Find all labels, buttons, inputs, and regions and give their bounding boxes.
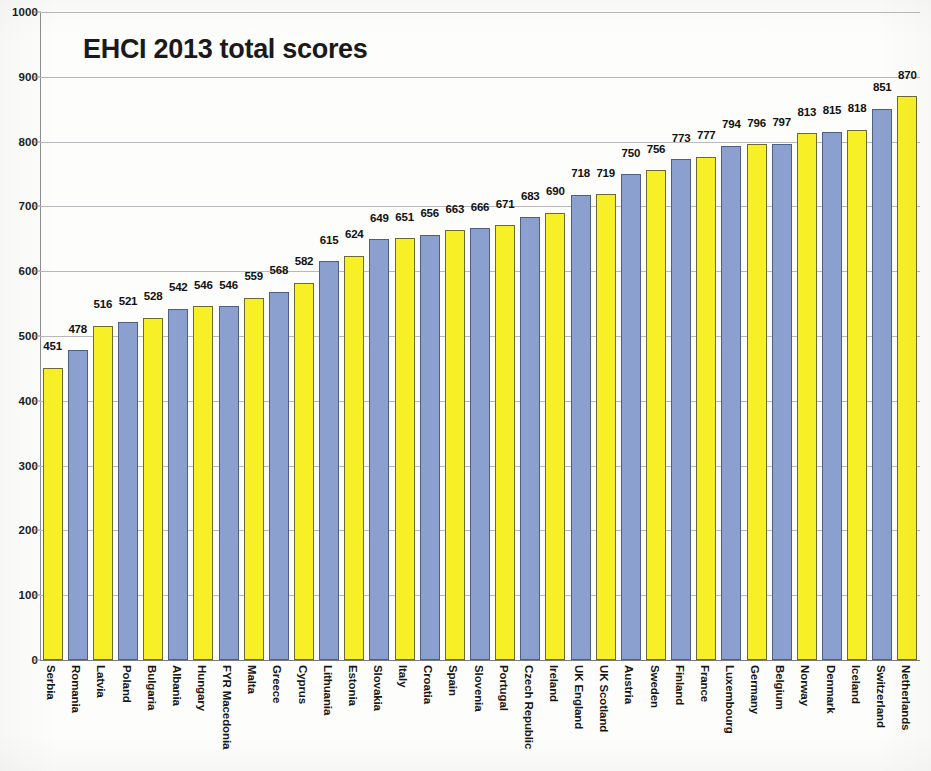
bar-value-label: 516 <box>94 299 113 313</box>
bar-value-label: 666 <box>471 201 490 215</box>
bar[interactable] <box>244 298 264 660</box>
x-axis-label: Romania <box>70 665 82 713</box>
x-axis-label: Spain <box>447 665 459 696</box>
bar-slot: 718 <box>571 12 591 660</box>
bar[interactable] <box>344 256 364 660</box>
bar-value-label: 568 <box>270 265 289 279</box>
x-axis-label: Netherlands <box>900 665 912 730</box>
bar[interactable] <box>545 213 565 660</box>
bar[interactable] <box>897 96 917 660</box>
bar-value-label: 451 <box>43 341 62 355</box>
bar-value-label: 656 <box>420 208 439 222</box>
bar[interactable] <box>646 170 666 660</box>
y-tick-label-800: 800 <box>0 136 38 148</box>
bar-slot: 516 <box>93 12 113 660</box>
x-axis-label: Malta <box>246 665 258 694</box>
bar[interactable] <box>822 132 842 660</box>
x-axis-label: Iceland <box>850 665 862 704</box>
bar-value-label: 546 <box>194 279 213 293</box>
bar-value-label: 818 <box>848 103 867 117</box>
gridline-0 <box>40 660 920 661</box>
x-axis-label: Norway <box>799 665 811 706</box>
bar-value-label: 651 <box>395 211 414 225</box>
bar[interactable] <box>294 283 314 660</box>
bar-slot: 796 <box>747 12 767 660</box>
bar-slot: 719 <box>596 12 616 660</box>
bar[interactable] <box>671 159 691 660</box>
y-tick-label-200: 200 <box>0 524 38 536</box>
x-axis-label: Serbia <box>45 665 57 700</box>
bar-value-label: 615 <box>320 234 339 248</box>
bar[interactable] <box>43 368 63 660</box>
chart-container: EHCI 2013 total scores 01002003004005006… <box>0 0 931 771</box>
bar-value-label: 777 <box>697 130 716 144</box>
bar[interactable] <box>369 239 389 660</box>
bar[interactable] <box>219 306 239 660</box>
bar-value-label: 478 <box>68 323 87 337</box>
bar[interactable] <box>571 195 591 660</box>
bar-value-label: 851 <box>873 82 892 96</box>
bar-slot: 542 <box>168 12 188 660</box>
bar[interactable] <box>420 235 440 660</box>
bar-value-label: 671 <box>496 198 515 212</box>
y-tick-label-700: 700 <box>0 200 38 212</box>
y-tick-label-600: 600 <box>0 265 38 277</box>
bar-value-label: 773 <box>672 132 691 146</box>
x-axis-label: Austria <box>623 665 635 704</box>
bar[interactable] <box>470 228 490 660</box>
bar-slot: 794 <box>721 12 741 660</box>
bar[interactable] <box>319 261 339 660</box>
bar[interactable] <box>193 306 213 660</box>
x-axis-label: FYR Macedonia <box>221 665 233 749</box>
bar[interactable] <box>269 292 289 660</box>
bar-value-label: 559 <box>244 271 263 285</box>
bar[interactable] <box>495 225 515 660</box>
x-axis-label: Luxembourg <box>724 665 736 734</box>
bar-slot: 870 <box>897 12 917 660</box>
bar[interactable] <box>747 144 767 660</box>
bar[interactable] <box>847 130 867 660</box>
bar[interactable] <box>93 326 113 660</box>
chart-title: EHCI 2013 total scores <box>83 34 368 65</box>
bar[interactable] <box>168 309 188 660</box>
bar[interactable] <box>872 109 892 660</box>
x-axis-label: Lithuania <box>322 665 334 715</box>
x-axis-label: Finland <box>674 665 686 705</box>
bar-slot: 528 <box>143 12 163 660</box>
x-axis-category-labels: SerbiaRomaniaLatviaPolandBulgariaAlbania… <box>40 665 920 771</box>
bar[interactable] <box>68 350 88 660</box>
bar-slot: 663 <box>445 12 465 660</box>
bar[interactable] <box>797 133 817 660</box>
x-axis-label: Slovenia <box>473 665 485 712</box>
bar-slot: 671 <box>495 12 515 660</box>
bar-value-label: 683 <box>521 190 540 204</box>
bar-value-label: 719 <box>596 167 615 181</box>
bar[interactable] <box>596 194 616 660</box>
bar-value-label: 546 <box>219 279 238 293</box>
bar-slot: 690 <box>545 12 565 660</box>
bar[interactable] <box>621 174 641 660</box>
bar-slot: 683 <box>520 12 540 660</box>
x-axis-label: Greece <box>271 665 283 703</box>
bar-value-label: 542 <box>169 282 188 296</box>
bar-value-label: 690 <box>546 186 565 200</box>
bar[interactable] <box>445 230 465 660</box>
x-axis-label: Belgium <box>774 665 786 710</box>
bar-value-label: 624 <box>345 229 364 243</box>
bar-slot: 624 <box>344 12 364 660</box>
bar[interactable] <box>520 217 540 660</box>
bar[interactable] <box>395 238 415 660</box>
bar-slot: 478 <box>68 12 88 660</box>
bar[interactable] <box>118 322 138 660</box>
x-axis-label: Denmark <box>825 665 837 714</box>
bar-slot: 521 <box>118 12 138 660</box>
bar-slot: 773 <box>671 12 691 660</box>
bar-value-label: 797 <box>772 117 791 131</box>
bar[interactable] <box>721 146 741 661</box>
x-axis-label: Hungary <box>196 665 208 711</box>
x-axis-label: Portugal <box>498 665 510 711</box>
bar-slot: 451 <box>43 12 63 660</box>
bar[interactable] <box>772 144 792 660</box>
bar[interactable] <box>143 318 163 660</box>
bar[interactable] <box>696 157 716 660</box>
